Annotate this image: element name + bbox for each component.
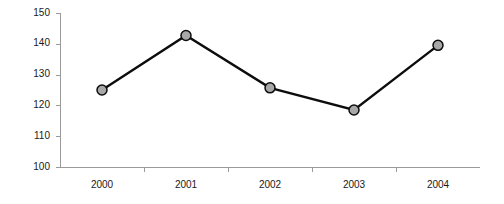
y-axis-tick-label: 110 <box>34 130 50 141</box>
data-point-marker <box>97 85 107 95</box>
line-chart: 100110120130140150 20002001200220032004 <box>0 0 504 204</box>
data-point-marker <box>349 105 359 115</box>
x-axis-tick-label: 2002 <box>259 179 282 190</box>
y-axis-tick-label: 140 <box>33 37 50 48</box>
chart-canvas: 100110120130140150 20002001200220032004 <box>0 0 504 204</box>
data-point-marker <box>265 83 275 93</box>
y-axis-tick-label: 100 <box>33 161 50 172</box>
series-line-1 <box>102 35 438 110</box>
x-axis-tick-label: 2004 <box>427 179 450 190</box>
y-axis-tick-label: 130 <box>33 68 50 79</box>
series-markers-1 <box>97 30 443 115</box>
y-axis-tick-labels: 100110120130140150 <box>33 7 50 172</box>
x-axis-tick-label: 2000 <box>91 179 114 190</box>
y-axis-tick-marks <box>56 14 60 168</box>
data-point-marker <box>181 30 191 40</box>
x-axis-tick-label: 2001 <box>175 179 198 190</box>
x-axis-tick-labels: 20002001200220032004 <box>91 179 450 190</box>
data-point-marker <box>433 40 443 50</box>
y-axis-tick-label: 120 <box>33 99 50 110</box>
y-axis-tick-label: 150 <box>33 7 50 18</box>
x-axis-tick-label: 2003 <box>343 179 366 190</box>
